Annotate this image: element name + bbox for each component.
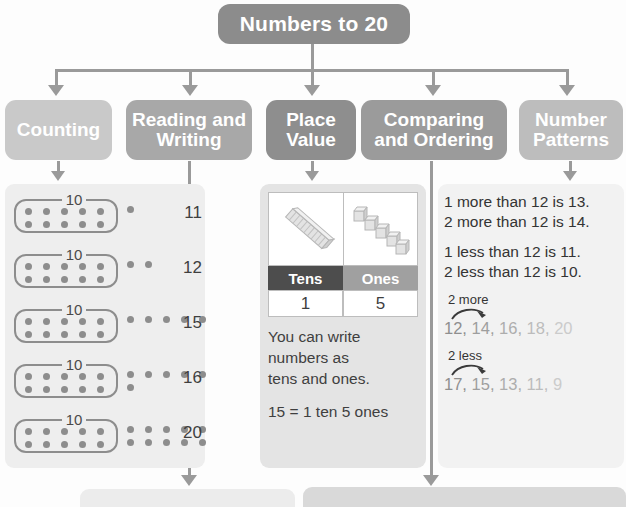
counter-dot [61,276,68,283]
counter-dot [97,441,104,448]
place-value-description-line-1: You can write [268,326,418,347]
arrow-counting-icon [48,85,64,96]
spacer [444,232,618,242]
place-value-description-line-2: numbers as [268,347,418,368]
counter-dot [127,261,134,268]
counter-dot [79,208,86,215]
pattern-more-numbers: 12, 14, 16, 18, 20 [444,319,618,338]
counter-dot [25,318,32,325]
category-box-comparing-and-ordering[interactable]: Comparing and Ordering [361,100,507,160]
counter-dot [43,428,50,435]
counter-dot [97,221,104,228]
counter-dot [163,316,170,323]
ten-frame-label: 10 [62,357,86,373]
ten-frame: 10 [14,364,118,398]
counting-total: 20 [172,423,202,443]
sequence-number: 15, [472,375,500,393]
counter-dot [43,263,50,270]
counter-dot [145,439,152,446]
counter-dot [79,386,86,393]
category-label-place-value: Place Value [272,110,350,150]
more-statement-1: 1 more than 12 is 13. [444,192,618,212]
counter-dot [25,428,32,435]
counter-dot [25,386,32,393]
ten-frame-dots [22,260,112,286]
arrow-comparing-icon [425,85,441,96]
counter-dot [25,331,32,338]
counter-dot [145,316,152,323]
counter-dot [61,373,68,380]
counter-dot [97,386,104,393]
ten-frame: 10 [14,199,118,233]
ten-frame-dots [22,425,112,451]
table-header-ones: Ones [343,266,418,290]
tens-rod-picture [269,193,343,265]
counter-dot [127,439,134,446]
connector-trunk-vertical [311,44,314,71]
counter-dot [61,208,68,215]
counter-dot [127,371,134,378]
category-box-reading-and-writing[interactable]: Reading and Writing [126,100,252,160]
category-label-number-patterns: Number Patterns [525,110,617,150]
category-box-place-value[interactable]: Place Value [266,100,356,160]
sequence-number: 18, [527,319,555,337]
ten-frame: 10 [14,309,118,343]
counting-total: 16 [172,368,202,388]
counting-row: 1012 [14,247,204,291]
tens-rod-icon [269,193,343,265]
ten-frame: 10 [14,419,118,453]
counter-dot [43,331,50,338]
comparing-panel: 1 more than 12 is 13. 2 more than 12 is … [438,184,624,468]
less-statement-2: 2 less than 12 is 10. [444,262,618,282]
table-header-tens-label: Tens [289,270,323,287]
counter-dot [127,384,134,391]
counter-dot [61,221,68,228]
ones-cubes-picture [343,193,418,265]
sequence-number: 20 [554,319,572,337]
place-value-table-row: 1 5 [268,290,418,317]
counter-dot [61,441,68,448]
less-statement-1: 1 less than 12 is 11. [444,242,618,262]
category-box-number-patterns[interactable]: Number Patterns [519,100,623,160]
ones-cubes-icon [344,193,418,265]
connector-comparing-long [430,161,433,477]
counter-dot [163,439,170,446]
counter-dot [61,386,68,393]
place-value-description: You can write numbers as tens and ones. [268,326,418,389]
table-header-tens: Tens [268,266,343,290]
counter-dot [61,318,68,325]
category-label-comparing-and-ordering: Comparing and Ordering [367,110,501,150]
counter-dot [127,426,134,433]
counter-dot [127,316,134,323]
arrow-comparing-bottom-icon [423,475,439,486]
more-statement-2: 2 more than 12 is 14. [444,212,618,232]
counter-dot [145,426,152,433]
counter-dot [97,318,104,325]
counter-dot [79,428,86,435]
counter-dot [145,261,152,268]
counter-dot [97,428,104,435]
counter-dot [163,371,170,378]
counting-row: 1011 [14,192,204,236]
counter-dot [25,221,32,228]
ten-frame-dots [22,315,112,341]
counter-dot [61,428,68,435]
counter-dot [43,386,50,393]
counter-dot [79,331,86,338]
counter-dot [43,441,50,448]
arrow-patterns-icon [559,85,575,96]
counting-panel: 10111012101510161020 [5,184,205,468]
counter-dot [97,373,104,380]
page-title-text: Numbers to 20 [240,12,388,36]
arrow-counting-panel-icon [51,171,65,181]
counting-row: 1016 [14,357,204,401]
counting-total: 12 [172,258,202,278]
counter-dot [25,208,32,215]
place-value-panel: Tens Ones 1 5 You can write numbers as t… [260,184,426,468]
bottom-left-box [80,489,295,507]
counter-dot [163,426,170,433]
category-box-counting[interactable]: Counting [5,100,112,160]
category-label-counting: Counting [17,120,100,140]
sequence-number: 17, [444,375,472,393]
sequence-number: 11, [527,375,553,393]
